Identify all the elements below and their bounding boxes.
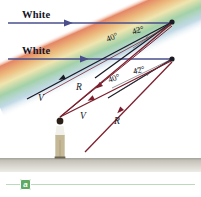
raindrop-upper	[169, 19, 174, 24]
observer-leg-split	[60, 140, 61, 158]
ground-strip	[0, 158, 201, 172]
observer-shoes	[55, 157, 66, 159]
label-violet-lower: V	[80, 112, 86, 122]
ground-edge	[0, 158, 201, 159]
label-red-lower: R	[114, 117, 120, 127]
panel-label-badge: a	[20, 179, 31, 190]
label-red-upper: R	[76, 83, 82, 93]
label-white-bottom: White	[22, 46, 50, 57]
label-white-top: White	[22, 10, 50, 21]
label-violet-upper: V	[38, 94, 44, 104]
observer-shirt	[55, 126, 65, 136]
figure-canvas	[0, 0, 201, 197]
rainbow-figure: White White 40° 42° 40° 42° V R V R a	[0, 0, 201, 197]
observer-figure	[55, 117, 66, 158]
observer-head	[57, 117, 64, 124]
